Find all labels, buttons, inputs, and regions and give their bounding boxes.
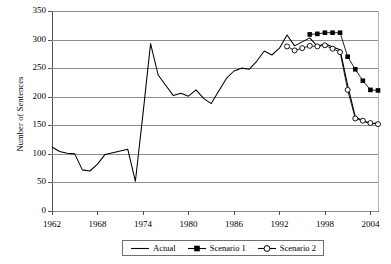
data-point-marker: [361, 78, 366, 83]
y-axis-tick-label: 0: [0, 206, 46, 215]
legend-label-actual: Actual: [153, 243, 176, 253]
plot-right-border: [378, 11, 379, 211]
x-axis-tick-label: 1962: [32, 219, 72, 229]
gridline: [52, 211, 378, 212]
data-point-marker: [315, 44, 320, 49]
data-point-marker: [376, 122, 381, 127]
y-axis-tick-label: 300: [0, 35, 46, 44]
chart-container: Number of Sentences 05010015020025030035…: [0, 0, 391, 264]
x-axis-tick-label: 2004: [350, 219, 390, 229]
data-point-marker: [330, 46, 335, 51]
data-point-marker: [338, 50, 343, 55]
legend-item-scenario-1: Scenario 1: [187, 243, 246, 253]
legend-line-swatch-actual: [130, 244, 150, 253]
x-axis-tick-label: 1992: [259, 219, 299, 229]
y-axis-tick-label: 100: [0, 149, 46, 158]
legend-label-scenario-1: Scenario 1: [210, 243, 246, 253]
y-axis-tick-label: 350: [0, 6, 46, 15]
series-line: [287, 45, 378, 124]
y-axis-tick-label: 200: [0, 92, 46, 101]
legend-square-swatch-scenario-1: [187, 244, 207, 253]
x-axis-tick-label: 1986: [214, 219, 254, 229]
series-scenario-1: [307, 30, 380, 92]
series-actual: [52, 35, 378, 181]
legend-circle-swatch-scenario-2: [257, 244, 277, 253]
data-point-marker: [285, 44, 290, 49]
data-point-marker: [315, 32, 320, 37]
chart-legend: Actual Scenario 1 Scenario 2: [122, 240, 324, 256]
x-axis-tick-label: 1974: [123, 219, 163, 229]
x-axis-tick-label: 1998: [305, 219, 345, 229]
data-point-marker: [292, 48, 297, 53]
data-point-marker: [330, 30, 335, 35]
data-point-marker: [307, 32, 312, 37]
x-axis-tick-mark: [52, 211, 53, 215]
x-axis-tick-label: 1980: [168, 219, 208, 229]
legend-item-scenario-2: Scenario 2: [257, 243, 316, 253]
data-point-marker: [345, 54, 350, 59]
y-axis-tick-label: 250: [0, 63, 46, 72]
x-axis-tick-mark: [234, 211, 235, 215]
y-axis-tick-label: 150: [0, 120, 46, 129]
data-point-marker: [353, 116, 358, 121]
data-point-marker: [323, 30, 328, 35]
x-axis-tick-mark: [143, 211, 144, 215]
legend-label-scenario-2: Scenario 2: [280, 243, 316, 253]
x-axis-tick-mark: [279, 211, 280, 215]
y-axis-title-wrapper: Number of Sentences: [0, 55, 20, 180]
series-line: [52, 35, 378, 181]
x-axis-tick-label: 1968: [77, 219, 117, 229]
data-point-marker: [368, 121, 373, 126]
series-line: [310, 33, 378, 91]
data-point-marker: [300, 46, 305, 51]
data-point-marker: [353, 67, 358, 72]
data-point-marker: [345, 87, 350, 92]
data-point-marker: [368, 88, 373, 93]
x-axis-tick-mark: [370, 211, 371, 215]
data-point-marker: [338, 30, 343, 35]
data-point-marker: [322, 43, 327, 48]
data-point-marker: [376, 88, 381, 93]
legend-item-actual: Actual: [130, 243, 176, 253]
y-axis-tick-label: 50: [0, 177, 46, 186]
x-axis-tick-mark: [188, 211, 189, 215]
series-plot-area: [52, 11, 378, 211]
x-axis-tick-mark: [325, 211, 326, 215]
data-point-marker: [360, 118, 365, 123]
data-point-marker: [307, 43, 312, 48]
x-axis-tick-mark: [97, 211, 98, 215]
